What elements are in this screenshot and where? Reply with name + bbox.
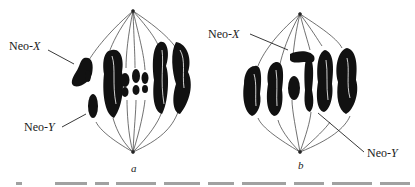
neo-x-label-a: Neo-X bbox=[9, 40, 40, 52]
panel-letter-b: b bbox=[298, 160, 304, 171]
neo-y-chromosome-a bbox=[88, 94, 98, 118]
neo-y-var-b: Y bbox=[391, 146, 398, 160]
panel-letter-a: a bbox=[131, 163, 137, 174]
neo-y-label-a: Neo-Y bbox=[24, 121, 55, 133]
neo-x-leader-a bbox=[48, 50, 74, 64]
neo-x-var-a: X bbox=[33, 39, 40, 53]
caption-fragment bbox=[16, 182, 410, 185]
neo-x-label-b: Neo-YX bbox=[208, 28, 239, 40]
neo-x-prefix-a: Neo- bbox=[9, 39, 33, 53]
chromosomes-b bbox=[243, 48, 357, 116]
neo-x-leader-b bbox=[250, 34, 288, 50]
neo-x-var-b-visible: X bbox=[232, 27, 239, 41]
neo-x-prefix-b: Neo- bbox=[208, 27, 232, 41]
neo-y-leader-b bbox=[318, 113, 364, 152]
neo-y-prefix-a: Neo- bbox=[24, 120, 48, 134]
neo-y-chromosome-b bbox=[304, 56, 313, 112]
chromosomes-a bbox=[72, 42, 191, 118]
neo-y-leader-a bbox=[62, 114, 86, 127]
neo-y-label-b: Neo-Y bbox=[367, 147, 398, 159]
neo-y-var-a: Y bbox=[48, 120, 55, 134]
neo-y-prefix-b: Neo- bbox=[367, 146, 391, 160]
